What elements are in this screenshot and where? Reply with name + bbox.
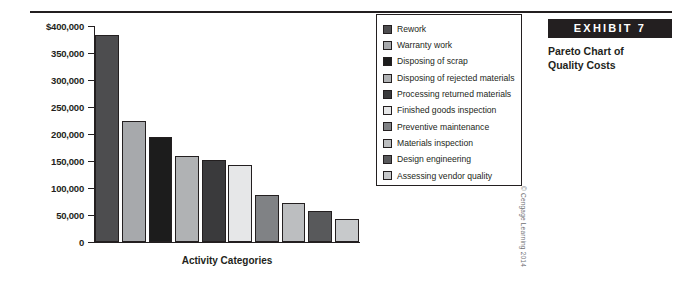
x-axis-line [94, 242, 360, 243]
bar [95, 35, 119, 242]
legend-label: Warranty work [397, 41, 452, 50]
bar-series [94, 26, 360, 242]
y-axis-tick-label: 250,000 [51, 102, 84, 113]
exhibit-title-line-1: Pareto Chart of [548, 45, 672, 59]
legend-label: Rework [397, 25, 426, 34]
legend-swatch-icon [383, 139, 392, 148]
legend-item: Rework [383, 21, 516, 37]
y-axis-tick-label: 200,000 [51, 129, 84, 140]
exhibit-block: EXHIBIT 7 Pareto Chart of Quality Costs [548, 19, 672, 72]
legend-item: Processing returned materials [383, 86, 516, 102]
legend-item: Assessing vendor quality [383, 168, 516, 184]
y-axis-tick-label: 350,000 [51, 48, 84, 59]
y-axis-tick-label: 50,000 [56, 210, 84, 221]
pareto-chart: $400,000350,000300,000250,000200,000150,… [0, 0, 370, 282]
y-axis-tick-label: 300,000 [51, 75, 84, 86]
legend-swatch-icon [383, 90, 392, 99]
y-axis-tick-label: 0 [79, 237, 84, 248]
legend-item: Preventive maintenance [383, 119, 516, 135]
bar [255, 195, 279, 242]
y-axis-tick-label: $400,000 [46, 21, 84, 32]
y-axis-tick-label: 150,000 [51, 156, 84, 167]
bar [149, 137, 173, 242]
legend-item: Disposing of scrap [383, 54, 516, 70]
exhibit-figure: $400,000350,000300,000250,000200,000150,… [0, 0, 698, 282]
y-axis-labels: $400,000350,000300,000250,000200,000150,… [22, 20, 84, 248]
legend-label: Processing returned materials [397, 90, 511, 99]
legend-label: Finished goods inspection [397, 106, 496, 115]
legend-swatch-icon [383, 25, 392, 34]
bar [122, 121, 146, 243]
bar [282, 203, 306, 242]
bar [202, 160, 226, 242]
legend-swatch-icon [383, 106, 392, 115]
legend-label: Disposing of scrap [397, 57, 468, 66]
legend-label: Assessing vendor quality [397, 172, 492, 181]
legend-label: Disposing of rejected materials [397, 74, 515, 83]
legend-item: Design engineering [383, 151, 516, 167]
bar [335, 219, 359, 242]
legend-swatch-icon [383, 155, 392, 164]
legend-swatch-icon [383, 122, 392, 131]
bar [308, 211, 332, 242]
exhibit-badge: EXHIBIT 7 [548, 19, 672, 38]
chart-legend: ReworkWarranty workDisposing of scrapDis… [376, 14, 522, 186]
legend-item: Finished goods inspection [383, 102, 516, 118]
bar [175, 156, 199, 242]
exhibit-title-line-2: Quality Costs [548, 59, 672, 73]
exhibit-title: Pareto Chart of Quality Costs [548, 45, 672, 72]
bar [228, 165, 252, 242]
legend-label: Preventive maintenance [397, 123, 489, 132]
legend-label: Design engineering [397, 155, 471, 164]
copyright-credit: © Cengage Learning 2014 [520, 186, 527, 267]
legend-swatch-icon [383, 171, 392, 180]
x-axis-title: Activity Categories [94, 255, 360, 266]
legend-item: Materials inspection [383, 135, 516, 151]
legend-item: Warranty work [383, 37, 516, 53]
legend-swatch-icon [383, 74, 392, 83]
legend-item: Disposing of rejected materials [383, 70, 516, 86]
legend-label: Materials inspection [397, 139, 473, 148]
y-axis-tick-label: 100,000 [51, 183, 84, 194]
legend-swatch-icon [383, 41, 392, 50]
legend-swatch-icon [383, 57, 392, 66]
